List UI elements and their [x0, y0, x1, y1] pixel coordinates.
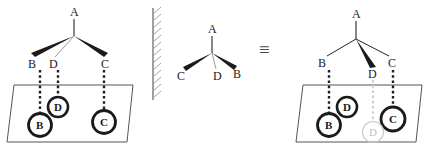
left-circle-label-c: C: [100, 117, 108, 128]
middle-panel-group: [183, 36, 237, 71]
left-branch-label-b: B: [28, 58, 36, 70]
right-circle-label-b: B: [325, 120, 332, 131]
right-branch-label-b: B: [318, 57, 326, 69]
left-circle-label-b: B: [36, 120, 43, 131]
left-branch-label-c: C: [101, 58, 109, 70]
middle-branch-label-b: B: [233, 68, 241, 80]
left-bond-to-b-wedge: [31, 36, 74, 57]
right-circle-label-d: D: [343, 102, 351, 113]
mirror-plane-group: [153, 7, 161, 100]
left-bond-to-d-line: [55, 36, 74, 57]
left-apex-label: A: [70, 6, 79, 18]
right-apex-label: A: [352, 8, 361, 20]
stereochemistry-figure: A B D C D B C A C D B ≡ A B D C D B C D: [0, 0, 429, 151]
equivalence-symbol: ≡: [259, 40, 270, 59]
right-ghost-circle-label-d: D: [369, 127, 377, 138]
middle-apex-label: A: [208, 23, 217, 35]
mirror-hatch-marks: [153, 7, 161, 98]
right-branch-label-c: C: [388, 57, 396, 69]
left-circle-label-d: D: [54, 102, 62, 113]
right-bond-to-b-line: [327, 39, 356, 56]
left-plane-parallelogram: [7, 85, 133, 142]
left-panel-group: [7, 19, 133, 142]
right-panel-group: [296, 21, 422, 143]
left-bond-to-c-wedge: [74, 36, 108, 57]
middle-branch-label-c: C: [177, 70, 185, 82]
middle-branch-label-d: D: [213, 70, 222, 82]
middle-bond-to-c-wedge: [183, 53, 212, 71]
right-circle-label-c: C: [389, 114, 397, 125]
right-branch-label-d: D: [368, 68, 377, 80]
right-bond-to-d-wedge: [356, 39, 376, 68]
left-branch-label-d: D: [49, 58, 58, 70]
